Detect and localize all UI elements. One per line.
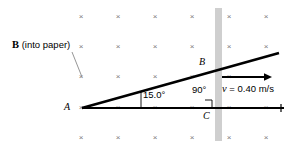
field-mark: × [116,42,121,51]
field-mark: × [227,42,232,51]
field-mark: × [264,133,269,142]
field-mark: × [153,133,158,142]
b-field-note: (into paper) [19,39,70,50]
field-mark: × [264,42,269,51]
field-mark: × [153,12,158,21]
field-mark: × [227,133,232,142]
b-field-leader-line [72,52,82,77]
point-a-label: A [64,102,70,112]
vertical-conducting-bar [215,8,222,141]
field-mark: × [190,42,195,51]
field-mark: × [116,12,121,21]
field-mark: × [116,72,121,81]
point-b-label: B [199,57,205,67]
field-mark: × [79,133,84,142]
field-mark: × [227,12,232,21]
angle-90-label: 90° [192,85,206,95]
field-mark: × [153,42,158,51]
b-field-label: B (into paper) [12,40,70,51]
field-mark: × [153,72,158,81]
field-mark: × [264,12,269,21]
field-mark: × [79,72,84,81]
field-mark: × [190,12,195,21]
field-mark: × [79,42,84,51]
b-field-symbol: B [12,39,19,50]
field-mark: × [79,12,84,21]
rotating-rod-line [82,53,279,108]
angle-15-label: 15.0° [143,90,165,100]
velocity-label: v = 0.40 m/s [222,84,274,95]
right-angle-marker [205,100,212,107]
field-mark: × [116,133,121,142]
velocity-value: = 0.40 m/s [227,83,274,94]
physics-diagram-rod-in-magnetic-field: ×××××××××××××××××××××××××××××× B (into p… [0,0,289,149]
point-c-label: C [203,111,210,121]
field-mark: × [190,133,195,142]
diagram-canvas: ×××××××××××××××××××××××××××××× [0,0,289,149]
